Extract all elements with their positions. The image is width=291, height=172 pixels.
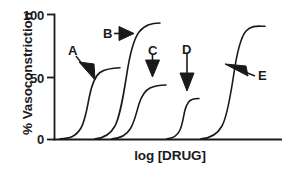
arrow-a-head [79,62,95,80]
curve-label-e: E [258,69,267,82]
y-axis-title: % Vasoconstriction [20,0,35,149]
curve-label-b: B [103,27,112,40]
arrow-b-head [119,27,134,41]
arrow-d-head [180,73,194,91]
curve-d [167,99,199,139]
x-axis-title: log [DRUG] [108,148,232,163]
dose-response-chart: 100 50 0 % Vasoconstriction log [DRUG] A… [0,0,291,172]
curve-a [60,68,120,139]
curve-label-d: D [182,43,191,56]
arrow-e-head [225,64,248,76]
curve-label-c: C [148,44,157,57]
curve-label-a: A [68,44,77,57]
curve-e [201,26,265,139]
arrow-c-head [146,60,160,77]
